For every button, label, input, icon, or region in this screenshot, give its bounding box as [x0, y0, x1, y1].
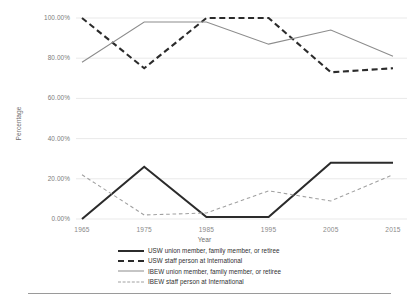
x-axis-tick-label: 1995	[249, 226, 289, 233]
legend-item[interactable]: IBEW union member, family member, or ret…	[118, 267, 281, 276]
legend-line-swatch-icon	[118, 256, 144, 265]
legend-line-swatch-icon	[118, 267, 144, 276]
x-axis-tick-label: 2005	[311, 226, 351, 233]
x-axis-tick-label: 1965	[62, 226, 102, 233]
legend-line-swatch-icon	[118, 277, 144, 286]
legend-line-swatch-icon	[118, 246, 144, 255]
legend-item-label: IBEW staff person at International	[148, 278, 244, 285]
y-axis-tick-label: 100.00%	[26, 14, 70, 21]
y-axis-tick-label: 60.00%	[26, 94, 70, 101]
legend-item-label: USW union member, family member, or reti…	[148, 247, 280, 254]
y-axis-tick-label: 40.00%	[26, 135, 70, 142]
legend-item-label: IBEW union member, family member, or ret…	[148, 268, 281, 275]
chart-legend: USW union member, family member, or reti…	[118, 246, 281, 286]
x-axis-tick-label: 2015	[373, 226, 409, 233]
x-axis-tick-label: 1985	[186, 226, 226, 233]
series-line-0	[82, 163, 393, 219]
legend-item[interactable]: USW staff person at International	[118, 256, 281, 265]
y-axis-tick-label: 20.00%	[26, 175, 70, 182]
y-axis-tick-label: 80.00%	[26, 54, 70, 61]
legend-item-label: USW staff person at International	[148, 257, 242, 264]
x-axis-tick-label: 1975	[124, 226, 164, 233]
series-line-1	[82, 18, 393, 72]
footer-divider	[28, 293, 391, 294]
chart-container: Percentage Year 0.00%20.00%40.00%60.00%8…	[0, 0, 409, 305]
y-axis-tick-label: 0.00%	[26, 215, 70, 222]
legend-item[interactable]: IBEW staff person at International	[118, 277, 281, 286]
legend-item[interactable]: USW union member, family member, or reti…	[118, 246, 281, 255]
